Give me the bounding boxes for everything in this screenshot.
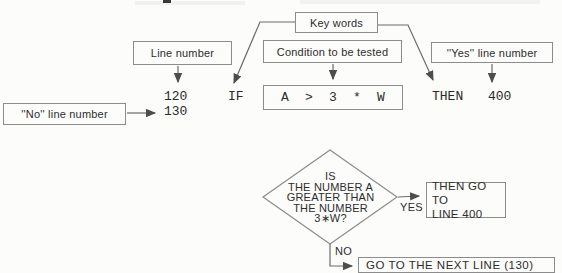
no-outcome-box: GO TO THE NEXT LINE (130) — [358, 257, 555, 273]
code-line-number: 120 — [164, 90, 187, 103]
code-yes-line-number: 400 — [488, 90, 511, 103]
code-if-keyword: IF — [228, 90, 244, 103]
line-number-label-box: Line number — [133, 41, 232, 65]
yes-branch-label: YES — [400, 201, 423, 213]
yes-outcome-box: THEN GO TO LINE 400 — [426, 182, 506, 218]
key-words-label-box: Key words — [295, 12, 378, 33]
code-condition-box: A > 3 * W — [263, 85, 403, 110]
code-no-line-number: 130 — [164, 105, 187, 118]
no-line-number-label-box: ''No'' line number — [3, 103, 126, 125]
basic-if-statement-diagram: Key words Line number Condition to be te… — [0, 0, 562, 273]
yes-branch-arrow — [398, 196, 419, 197]
condition-label-box: Condition to be tested — [263, 40, 402, 63]
no-branch-label: NO — [335, 245, 352, 257]
code-then-keyword: THEN — [432, 90, 463, 103]
decision-question: IS THE NUMBER A GREATER THAN THE NUMBER … — [262, 171, 399, 224]
yes-line-number-label-box: ''Yes'' line number — [431, 42, 553, 63]
